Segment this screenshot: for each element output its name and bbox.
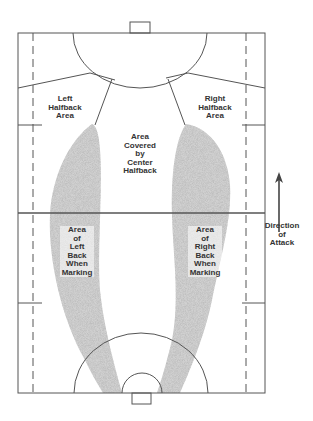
bottom-goal <box>132 393 151 404</box>
top-goal <box>130 22 150 33</box>
right-halfback-boundary <box>166 73 265 88</box>
left-center-boundary <box>95 79 112 125</box>
right-halfback-area-label: Right Halfback Area <box>195 95 235 121</box>
right-back-area-label: Area of Right Back When Marking <box>188 226 222 277</box>
left-back-area-label: Area of Left Back When Marking <box>60 226 94 277</box>
center-halfback-area-label: Area Covered by Center Halfback <box>115 133 165 176</box>
direction-of-attack-label: Direction of Attack <box>262 222 302 248</box>
right-center-boundary <box>168 79 185 125</box>
top-shooting-circle <box>73 33 207 88</box>
field-diagram <box>0 0 313 421</box>
bottom-inner-arc <box>122 373 162 393</box>
left-halfback-area-label: Left Halfback Area <box>45 95 85 121</box>
